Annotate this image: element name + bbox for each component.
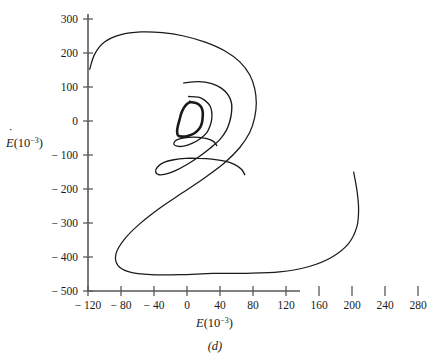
figure-phase-portrait: 3002001000− 100− 200− 300− 400− 500 − 12… [0,0,432,360]
trajectory-limit-cycle [177,102,203,137]
x-axis-label: E(10−3) [195,316,233,330]
trajectory-group [90,32,359,275]
x-axis-tick-label: − 40 [144,299,165,311]
x-axis-tick-label: 240 [376,299,394,311]
y-axis-tick-label: − 300 [51,217,78,229]
x-axis-tick-label: − 120 [75,299,102,311]
x-axis-tick-label: 80 [247,299,259,311]
x-axis-tick-label: 200 [343,299,361,311]
x-axis-tick-labels: − 120− 80− 4004080120160200240280 [75,299,427,311]
y-axis-label-exponent: −3 [30,136,39,145]
trajectory-outer-spiral [90,32,359,275]
svg-text:E(10−3): E(10−3) [195,316,233,330]
axes-group [83,14,418,296]
y-axis-tick-label: 200 [61,47,79,59]
x-axis-tick-label: 120 [277,299,295,311]
x-axis-tick-label: 0 [184,299,190,311]
y-axis-label: E(10−3) ˙ [5,126,43,150]
y-axis-label-paren-open: (10 [14,136,31,150]
y-axis-tick-label: 100 [61,81,79,93]
figure-caption: (d) [208,339,223,353]
x-axis-tick-label: 280 [409,299,427,311]
y-axis-tick-label: − 400 [51,251,78,263]
y-axis-label-paren-close: ) [39,136,43,150]
x-axis-label-base: E [195,316,204,330]
y-axis-label-dot-accent: ˙ [8,126,12,140]
y-axis-tick-label: − 200 [51,183,78,195]
x-axis-label-exponent: −3 [220,316,229,325]
axis-lines [88,14,300,291]
x-axis-label-paren-close: ) [229,316,233,330]
y-axis-tick-label: 0 [72,115,78,127]
x-axis-tick-label: 40 [214,299,226,311]
y-axis-tick-label: − 100 [51,149,78,161]
x-axis-label-paren-open: (10 [204,316,221,330]
y-axis-tick-label: 300 [61,13,79,25]
y-axis-tick-label: − 500 [51,285,78,297]
x-axis-tick-label: 160 [310,299,328,311]
phase-portrait-svg: 3002001000− 100− 200− 300− 400− 500 − 12… [0,0,432,360]
y-axis-tick-labels: 3002001000− 100− 200− 300− 400− 500 [51,13,78,297]
x-axis-tick-label: − 80 [111,299,132,311]
